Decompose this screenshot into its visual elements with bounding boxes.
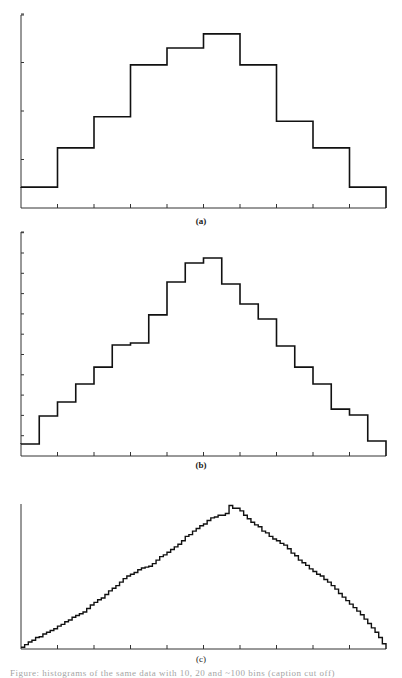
panel-label-b: (b)	[181, 460, 221, 470]
panel-label-c: (c)	[181, 654, 221, 664]
histogram-step-line	[21, 506, 386, 649]
histogram-panel-c	[21, 504, 386, 649]
histogram-panel-a	[21, 14, 386, 208]
histogram-step-line	[21, 34, 386, 208]
panel-label-a: (a)	[181, 216, 221, 226]
histogram-figure	[0, 0, 402, 678]
histogram-panel-b	[21, 232, 386, 456]
figure-caption: Figure: histograms of the same data with…	[10, 668, 400, 678]
histogram-step-line	[21, 258, 386, 456]
